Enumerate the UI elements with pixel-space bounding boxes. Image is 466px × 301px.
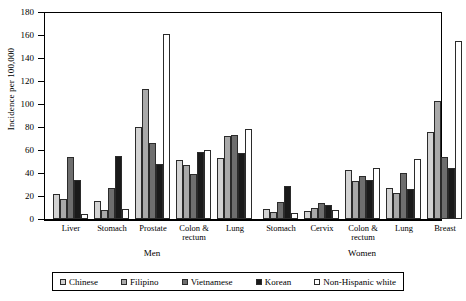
bar-group <box>94 12 129 219</box>
y-tick-label: 120 <box>0 77 34 86</box>
legend-label: Korean <box>265 277 292 287</box>
bar <box>318 203 325 219</box>
bar <box>81 214 88 219</box>
bar <box>197 152 204 219</box>
bar <box>277 202 284 219</box>
legend-label: Non-Hispanic white <box>323 277 396 287</box>
y-tick-label: 180 <box>0 8 34 17</box>
legend-label: Vietnamese <box>191 277 233 287</box>
bar <box>142 89 149 219</box>
y-tick-label: 100 <box>0 100 34 109</box>
x-category-label: Breast <box>417 224 466 233</box>
bar <box>407 189 414 219</box>
bar <box>149 143 156 219</box>
y-tick-label: 80 <box>0 123 34 132</box>
bar <box>67 157 74 219</box>
bar <box>414 159 421 219</box>
legend-swatch-icon <box>121 279 127 285</box>
bar <box>190 174 197 219</box>
bar <box>366 180 373 219</box>
legend-item: Non-Hispanic white <box>314 277 396 287</box>
bar <box>270 212 277 219</box>
bar <box>448 168 455 219</box>
legend-swatch-icon <box>314 279 320 285</box>
bar <box>204 150 211 219</box>
bar-group <box>53 12 88 219</box>
bar-series-container <box>45 12 441 219</box>
y-tick-label: 140 <box>0 54 34 63</box>
y-tick-label: 60 <box>0 146 34 155</box>
bar <box>325 205 332 219</box>
bar <box>224 136 231 219</box>
legend-swatch-icon <box>60 279 66 285</box>
bar <box>311 208 318 220</box>
legend-label: Chinese <box>69 277 98 287</box>
legend-item: Chinese <box>60 277 98 287</box>
bar <box>60 199 67 219</box>
sex-group-label: Women <box>259 248 465 258</box>
chart-legend: ChineseFilipinoVietnameseKoreanNon-Hispa… <box>52 272 404 291</box>
bar <box>156 164 163 219</box>
bar <box>163 34 170 219</box>
bar <box>359 176 366 219</box>
y-tick-label: 40 <box>0 169 34 178</box>
bar <box>284 186 291 219</box>
bar <box>455 41 462 219</box>
legend-item: Vietnamese <box>182 277 233 287</box>
bar <box>400 173 407 219</box>
bar-group <box>304 12 339 219</box>
x-axis-line <box>44 219 442 221</box>
bar <box>263 209 270 219</box>
bar <box>373 168 380 219</box>
sex-group-label: Men <box>49 248 255 258</box>
bar <box>386 188 393 219</box>
bar <box>183 165 190 219</box>
bar <box>352 181 359 219</box>
bar <box>101 210 108 219</box>
bar <box>94 201 101 219</box>
bar-group <box>263 12 298 219</box>
bar <box>217 158 224 219</box>
bar <box>231 135 238 219</box>
bar-group <box>427 12 462 219</box>
bar <box>122 209 129 219</box>
bar <box>441 157 448 219</box>
y-tick-label: 160 <box>0 31 34 40</box>
bar <box>393 193 400 219</box>
bar-group <box>217 12 252 219</box>
bar-group <box>135 12 170 219</box>
legend-swatch-icon <box>182 279 188 285</box>
bar <box>53 194 60 219</box>
bar-group <box>176 12 211 219</box>
bar <box>332 210 339 219</box>
bar <box>238 153 245 219</box>
bar <box>108 188 115 219</box>
bar <box>176 160 183 219</box>
bar <box>74 180 81 219</box>
bar <box>427 132 434 219</box>
plot-area: Incidence per 100,000 180160140120100806… <box>0 0 453 262</box>
bar-group <box>386 12 421 219</box>
y-tick-label: 0 <box>0 215 34 224</box>
y-tick-label: 20 <box>0 192 34 201</box>
bar-group <box>345 12 380 219</box>
bar <box>115 156 122 219</box>
bar <box>304 211 311 219</box>
legend-swatch-icon <box>256 279 262 285</box>
bar <box>135 127 142 219</box>
legend-item: Korean <box>256 277 292 287</box>
legend-label: Filipino <box>130 277 159 287</box>
bar <box>291 213 298 219</box>
bar <box>434 101 441 219</box>
bar <box>245 129 252 219</box>
bar <box>345 170 352 219</box>
legend-item: Filipino <box>121 277 159 287</box>
